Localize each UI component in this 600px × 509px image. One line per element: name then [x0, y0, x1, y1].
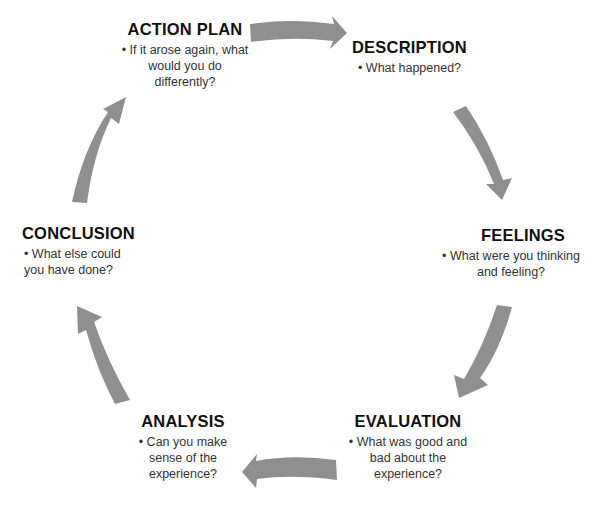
stage-evaluation: EVALUATION • What was good and bad about… [346, 412, 470, 482]
stage-conclusion: CONCLUSION • What else could you have do… [22, 224, 142, 278]
stage-bullet: • What was good and bad about the experi… [346, 434, 470, 482]
stage-feelings: FEELINGS • What were you thinking and fe… [440, 226, 582, 280]
arrow-down-right-icon [453, 106, 512, 200]
stage-bullet: • What were you thinking and feeling? [440, 248, 582, 280]
stage-bullet: • What happened? [352, 60, 492, 76]
reflective-cycle-diagram: ACTION PLAN • If it arose again, what wo… [0, 0, 600, 509]
stage-analysis: ANALYSIS • Can you make sense of the exp… [126, 412, 240, 482]
arrow-left-icon [242, 454, 337, 488]
stage-bullet: • If it arose again, what would you do d… [110, 42, 260, 90]
stage-title: FEELINGS [440, 226, 582, 245]
stage-title: CONCLUSION [22, 224, 142, 243]
arrow-right-icon [250, 16, 347, 49]
arrow-down-left-icon [454, 305, 512, 398]
stage-bullet: • Can you make sense of the experience? [126, 434, 240, 482]
arrow-up-left-icon [77, 306, 130, 404]
stage-title: ANALYSIS [126, 412, 240, 431]
stage-description: DESCRIPTION • What happened? [352, 38, 492, 76]
stage-title: DESCRIPTION [352, 38, 492, 57]
arrow-up-right-icon [72, 97, 126, 203]
stage-action-plan: ACTION PLAN • If it arose again, what wo… [110, 20, 260, 90]
stage-title: ACTION PLAN [110, 20, 260, 39]
stage-bullet: • What else could you have done? [22, 246, 142, 278]
stage-title: EVALUATION [346, 412, 470, 431]
